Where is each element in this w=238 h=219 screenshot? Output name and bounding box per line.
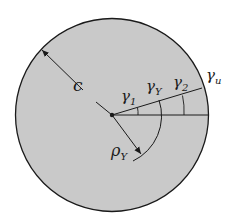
center-point [110, 113, 114, 117]
torsion-cross-section-diagram: c γ1 γY γ2 γu ρY [0, 0, 238, 219]
label-gamma-u: γu [206, 66, 221, 86]
label-c: c [73, 75, 83, 95]
